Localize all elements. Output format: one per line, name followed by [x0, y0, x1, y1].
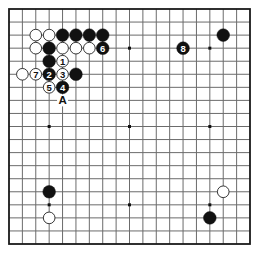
white-stone-move-1: 1: [57, 55, 69, 67]
black-stone: [70, 68, 83, 81]
black-stone-move-8: 8: [177, 42, 190, 55]
move-number-label: 4: [60, 82, 66, 93]
star-point: [128, 203, 131, 206]
white-stone: [43, 212, 55, 224]
white-stone: [217, 186, 229, 198]
star-point: [208, 125, 211, 128]
star-point: [208, 47, 211, 50]
move-number-label: 6: [100, 43, 105, 54]
black-stone: [217, 29, 230, 42]
black-stone: [83, 29, 96, 42]
point-marker-label: A: [58, 94, 66, 106]
move-number-label: 7: [33, 69, 38, 80]
white-stone: [70, 42, 82, 54]
black-stone: [96, 29, 109, 42]
white-stone: [17, 68, 29, 80]
go-board-diagram: 61723548 A: [0, 0, 258, 256]
move-number-label: 5: [47, 82, 53, 93]
black-stone: [204, 212, 217, 225]
move-number-label: 3: [60, 69, 65, 80]
move-number-label: 8: [180, 43, 185, 54]
black-stone: [43, 42, 56, 55]
star-point: [128, 47, 131, 50]
black-stone: [56, 29, 69, 42]
move-number-label: 2: [47, 69, 52, 80]
white-stone: [30, 29, 42, 41]
white-stone-move-7: 7: [30, 68, 42, 80]
black-stone: [70, 29, 83, 42]
white-stone: [57, 42, 69, 54]
go-board: 61723548 A: [0, 0, 258, 256]
white-stone: [30, 42, 42, 54]
black-stone-move-2: 2: [43, 68, 56, 81]
white-stone-move-3: 3: [57, 68, 69, 80]
markers-layer: A: [57, 94, 68, 106]
white-stone: [43, 29, 55, 41]
star-point: [48, 203, 51, 206]
black-stone: [43, 55, 56, 68]
black-stone-move-4: 4: [56, 81, 69, 94]
star-point: [128, 125, 131, 128]
star-point: [48, 125, 51, 128]
white-stone-move-5: 5: [43, 82, 55, 94]
move-number-label: 1: [60, 56, 66, 67]
black-stone: [43, 185, 56, 198]
white-stone: [84, 42, 96, 54]
star-point: [208, 203, 211, 206]
black-stone-move-6: 6: [96, 42, 109, 55]
